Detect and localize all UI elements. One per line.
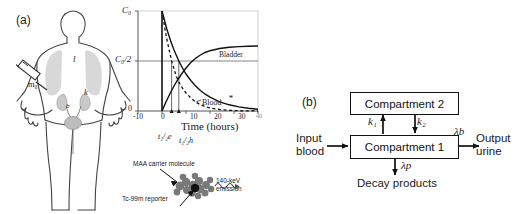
compartment-1-label: Compartment 1 [365,141,444,153]
compartment-1-box[interactable]: Compartment 1 [350,135,459,159]
k1-rate-label: k₁ [368,116,377,127]
maa-carrier-label: MAA carrier molecule [133,161,195,168]
panel-a: (a) [0,0,265,214]
data-point-asterisk: * [229,93,234,103]
x-tick-label-30: 30 [238,113,246,121]
blood-curve-label: Blood [202,99,222,107]
figure-root: (a) [0,0,530,214]
x-tick-label-0: 0 [161,113,165,121]
output-urine-label: Output urine [476,132,511,158]
y-axis-top-label: C₀ [122,6,131,15]
blood-physical-curve [162,11,258,109]
t-half-biological-label: t₁/₂h [179,137,193,145]
lambda-p-rate-label: λp [401,160,411,171]
emission-label: 140-keV emission [216,177,242,193]
output-urine-line2: urine [476,145,511,158]
bladder-curve-label: Bladder [219,51,243,59]
y-axis-zero-label: 0 [128,105,132,113]
x-tick-label-40: 40 [256,113,262,119]
input-blood-line2: blood [296,145,324,158]
input-blood-label: Input blood [296,132,324,158]
lambda-b-rate-label: λb [454,126,464,137]
t-half-effective-label: t₁/₂e [158,133,172,141]
x-axis-title: Time (hours) [181,121,238,132]
k2-rate-label: k₂ [417,116,426,127]
output-urine-line1: Output [476,132,511,145]
input-blood-line1: Input [296,132,324,145]
x-tick-label-neg10: -10 [133,113,143,121]
compartment-2-label: Compartment 2 [365,98,444,110]
pharmacokinetics-plot: * [0,0,265,160]
y-axis-half-label: C₀/2 [115,55,131,64]
panel-b: (b) Compartment 2 [265,0,530,214]
emission-label-line2: emission [216,185,242,193]
compartment-2-box[interactable]: Compartment 2 [350,92,459,115]
decay-products-label: Decay products [357,178,437,190]
emission-label-line1: 140-keV [216,177,242,185]
tc99m-reporter-label: Tc-99m reporter [122,196,168,203]
